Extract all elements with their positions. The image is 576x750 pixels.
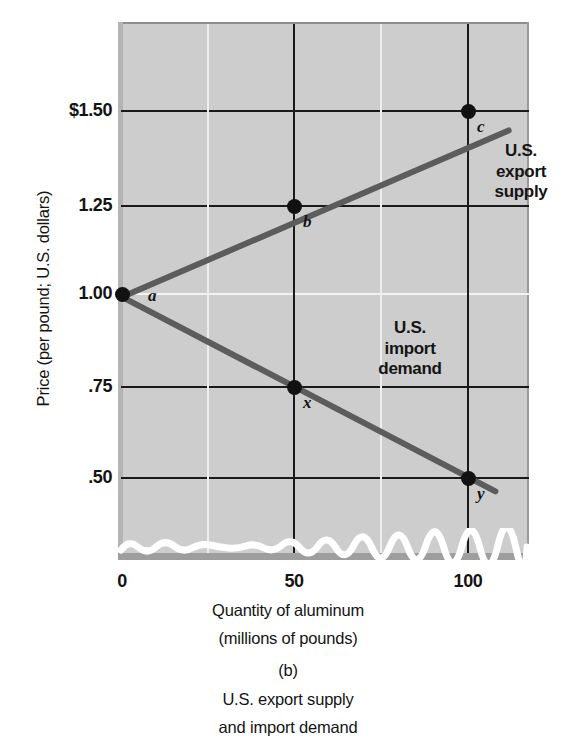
figure-title-line1: U.S. export supply (0, 690, 576, 709)
point-label-x: x (303, 393, 312, 413)
y-tick-050: .50 (40, 467, 112, 488)
x-tick-50: 50 (264, 571, 324, 592)
x-axis-label-line2: (millions of pounds) (0, 629, 576, 648)
annotation-import-demand: U.S. import demand (355, 318, 465, 380)
y-axis-tick-labels: $1.50 1.25 1.00 .75 .50 (36, 0, 112, 560)
point-a (115, 287, 130, 302)
x-tick-0: 0 (92, 571, 152, 592)
annotation-export-supply-line2: export (466, 162, 576, 183)
plot-border-right (527, 22, 529, 560)
y-tick-150: $1.50 (40, 100, 112, 121)
point-b (287, 199, 302, 214)
x-tick-100: 100 (438, 571, 498, 592)
figure-title-line2: and import demand (0, 718, 576, 737)
point-label-c: c (477, 117, 485, 137)
y-tick-075: .75 (40, 376, 112, 397)
point-c (461, 104, 476, 119)
annotation-export-supply: U.S. export supply (466, 141, 576, 203)
axis-break-wave (118, 528, 529, 562)
x-axis-label-line1: Quantity of aluminum (0, 601, 576, 620)
point-label-b: b (303, 212, 312, 232)
annotation-import-demand-line1: U.S. (355, 318, 465, 339)
annotation-export-supply-line1: U.S. (466, 141, 576, 162)
figure-panel-b: Price (per pound; U.S. dollars) $1.50 1.… (0, 0, 576, 750)
annotation-export-supply-line3: supply (466, 182, 576, 203)
annotation-import-demand-line2: import (355, 339, 465, 360)
gridline-qty-75 (380, 24, 382, 553)
annotation-import-demand-line3: demand (355, 359, 465, 380)
point-label-y: y (477, 484, 485, 504)
y-tick-125: 1.25 (40, 195, 112, 216)
gridline-qty-25 (207, 24, 209, 553)
point-y (461, 471, 476, 486)
gridline-qty-50 (293, 24, 295, 553)
point-label-a: a (148, 286, 157, 306)
point-x (287, 380, 302, 395)
y-tick-100: 1.00 (40, 283, 112, 304)
panel-label: (b) (0, 661, 576, 680)
